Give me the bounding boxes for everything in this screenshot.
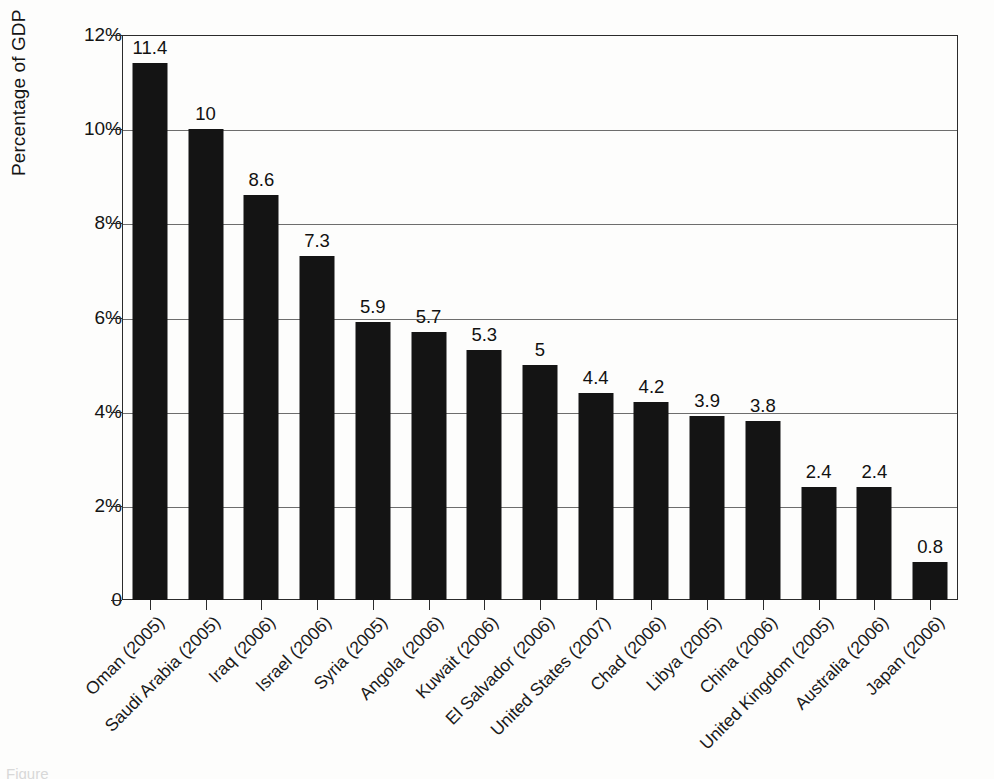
- x-axis-tick-mark: [819, 600, 820, 610]
- bar-value-label: 4.2: [639, 376, 665, 398]
- x-axis-tick-mark: [429, 600, 430, 610]
- x-axis-tick-mark: [206, 600, 207, 610]
- y-axis-tick-mark: [111, 600, 122, 601]
- bar-group: 11.4: [122, 35, 178, 600]
- y-axis-tick-mark: [111, 318, 122, 319]
- x-axis-tick-mark: [484, 600, 485, 610]
- bar-value-label: 11.4: [133, 37, 168, 59]
- bar[interactable]: [132, 63, 167, 600]
- bar-value-label: 4.4: [583, 367, 609, 389]
- y-axis-title: Percentage of GDP: [8, 0, 44, 176]
- bar[interactable]: [244, 195, 279, 600]
- bar-value-label: 5.7: [416, 306, 442, 328]
- bar[interactable]: [188, 129, 223, 600]
- x-axis-tick-mark: [930, 600, 931, 610]
- x-axis-tick-mark: [596, 600, 597, 610]
- bar-value-label: 8.6: [248, 169, 274, 191]
- x-axis-tick-mark: [540, 600, 541, 610]
- x-axis-category-labels: Oman (2005)Saudi Arabia (2005)Iraq (2006…: [122, 612, 994, 772]
- y-axis-tick-mark: [111, 223, 122, 224]
- bar-group: 3.8: [735, 35, 791, 600]
- bar-group: 8.6: [233, 35, 289, 600]
- x-axis-tick-mark: [763, 600, 764, 610]
- bar-group: 5.7: [401, 35, 457, 600]
- bar-group: 5.9: [345, 35, 401, 600]
- bar-chart-figure: Percentage of GDP 12%10%8%6%4%2%0 11.410…: [0, 0, 994, 779]
- bar-value-label: 5.3: [471, 324, 497, 346]
- y-axis-tick-mark: [111, 412, 122, 413]
- bars-group: 11.4108.67.35.95.75.354.44.23.93.82.42.4…: [122, 35, 958, 600]
- x-axis-tick-mark: [651, 600, 652, 610]
- x-axis-tick-mark: [373, 600, 374, 610]
- bar-value-label: 5.9: [360, 296, 386, 318]
- x-axis-tick-mark: [707, 600, 708, 610]
- bar-value-label: 7.3: [304, 230, 330, 252]
- bar-group: 2.4: [791, 35, 847, 600]
- bar[interactable]: [300, 256, 335, 600]
- x-axis-tick-mark: [874, 600, 875, 610]
- bar-group: 5.3: [456, 35, 512, 600]
- bar-value-label: 3.9: [694, 390, 720, 412]
- bar-value-label: 3.8: [750, 395, 776, 417]
- x-axis-tick-mark: [261, 600, 262, 610]
- y-axis-tick-labels: 12%10%8%6%4%2%0: [40, 35, 122, 600]
- x-axis-tick-mark: [150, 600, 151, 610]
- bar-group: 2.4: [847, 35, 903, 600]
- y-axis-tick-mark: [111, 129, 122, 130]
- x-axis-tick-mark: [317, 600, 318, 610]
- bar-value-label: 10: [195, 103, 216, 125]
- bar-group: 4.4: [568, 35, 624, 600]
- y-axis-tick-mark: [111, 35, 122, 36]
- bar-group: 5: [512, 35, 568, 600]
- figure-caption-cropped: Figure: [6, 765, 426, 779]
- bar-group: 10: [178, 35, 234, 600]
- bar-value-label: 2.4: [862, 461, 888, 483]
- bar-value-label: 2.4: [806, 461, 832, 483]
- bar-value-label: 5: [535, 339, 545, 361]
- y-axis-tick-mark: [111, 506, 122, 507]
